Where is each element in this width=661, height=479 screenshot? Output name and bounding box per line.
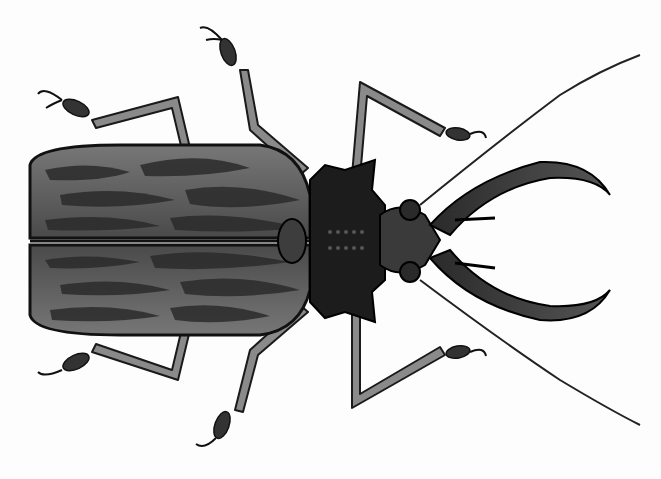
beetle-illustration — [0, 0, 661, 479]
head — [380, 200, 440, 282]
beetle-svg — [0, 0, 661, 479]
mandibles — [430, 162, 610, 321]
antennae — [420, 55, 640, 425]
elytra — [30, 145, 310, 335]
